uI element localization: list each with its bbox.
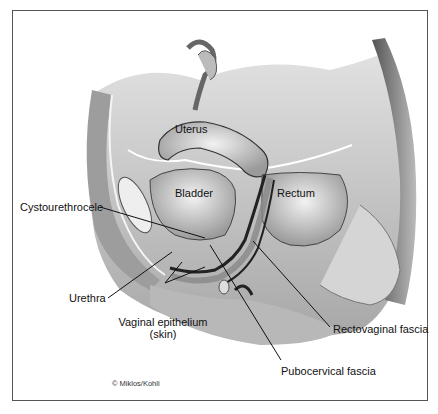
label-cystourethrocele: Cystourethrocele xyxy=(20,201,103,213)
label-rectum: Rectum xyxy=(277,187,315,199)
label-bladder: Bladder xyxy=(175,187,213,199)
label-pubocervical-fascia: Pubocervical fascia xyxy=(281,365,376,377)
label-rectovaginal-fascia: Rectovaginal fascia xyxy=(333,323,428,335)
copyright-credit: © Miklos/Kohli xyxy=(112,378,160,390)
label-vaginal-epithelium: Vaginal epithelium (skin) xyxy=(113,316,213,340)
label-vaginal-epithelium-line1: Vaginal epithelium xyxy=(113,316,213,328)
label-urethra: Urethra xyxy=(69,292,106,304)
label-uterus: Uterus xyxy=(175,123,207,135)
label-vaginal-epithelium-line2: (skin) xyxy=(113,328,213,340)
